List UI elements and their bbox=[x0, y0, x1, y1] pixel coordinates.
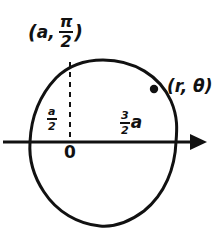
fraction-a-over-2: a 2 bbox=[47, 106, 57, 132]
label-left-segment: a 2 bbox=[47, 106, 57, 132]
axis-arrowhead-icon bbox=[190, 134, 207, 150]
fraction-denominator-2: 2 bbox=[47, 121, 57, 132]
fraction-denominator-2: 2 bbox=[59, 34, 72, 50]
label-close-paren: ) bbox=[74, 23, 83, 42]
fraction-numerator-a: a bbox=[47, 106, 56, 117]
label-variable-a: a bbox=[131, 114, 142, 131]
label-open-paren: ( bbox=[28, 23, 37, 42]
fraction-3-over-2: 3 2 bbox=[120, 110, 130, 136]
fraction-denominator-2: 2 bbox=[120, 125, 130, 136]
fraction-numerator-pi: π bbox=[59, 14, 74, 30]
label-top-point: ( a , π 2 ) bbox=[28, 14, 83, 50]
label-curve-point: (r, θ) bbox=[167, 78, 212, 95]
label-radius-a: a bbox=[37, 24, 48, 41]
fraction-pi-over-2: π 2 bbox=[59, 14, 74, 50]
label-origin: 0 bbox=[64, 144, 76, 161]
fraction-numerator-3: 3 bbox=[120, 110, 130, 121]
curve-point-marker bbox=[150, 85, 158, 93]
polar-circle-diagram: ( a , π 2 ) (r, θ) a 2 3 2 a 0 bbox=[0, 0, 222, 244]
label-right-segment: 3 2 a bbox=[120, 110, 142, 136]
label-comma: , bbox=[48, 24, 54, 41]
